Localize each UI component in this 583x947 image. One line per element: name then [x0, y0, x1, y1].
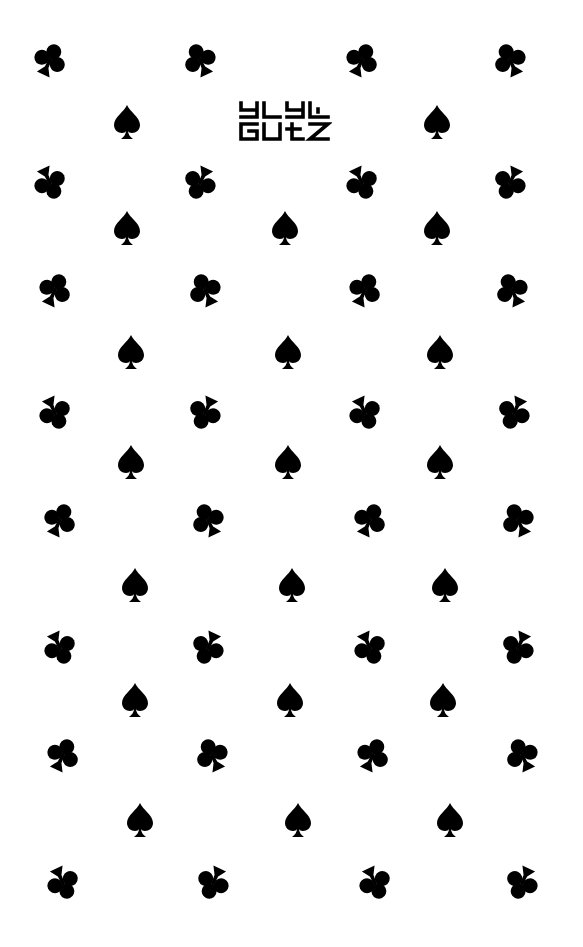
club-icon [186, 856, 239, 909]
club-icon [335, 156, 388, 209]
spade-icon [270, 680, 310, 720]
club-icon [28, 386, 81, 439]
spade-icon [111, 332, 151, 372]
club-icon [36, 856, 89, 909]
club-icon [491, 621, 544, 674]
club-icon [335, 33, 388, 86]
club-icon [178, 263, 231, 316]
club-icon [178, 386, 231, 439]
spade-icon [420, 332, 460, 372]
club-icon [173, 33, 226, 86]
club-icon [346, 728, 399, 781]
logo: YLYL GUTZ [238, 100, 332, 142]
spade-icon [107, 102, 147, 142]
spade-icon [268, 442, 308, 482]
club-icon [487, 386, 540, 439]
spade-icon [417, 208, 457, 248]
club-icon [23, 156, 76, 209]
club-icon [36, 728, 89, 781]
club-icon [181, 493, 234, 546]
club-icon [338, 263, 391, 316]
spade-icon [425, 565, 465, 605]
club-icon [23, 33, 76, 86]
spade-icon [268, 332, 308, 372]
club-icon [33, 621, 86, 674]
spade-icon [115, 680, 155, 720]
club-icon [483, 156, 536, 209]
ylyl-gutz-logo-icon: YLYL GUTZ [238, 100, 332, 142]
spade-icon [423, 680, 463, 720]
club-icon [33, 493, 86, 546]
club-icon [491, 493, 544, 546]
club-icon [495, 856, 548, 909]
spade-icon [265, 208, 305, 248]
spade-icon [430, 800, 470, 840]
spade-icon [278, 800, 318, 840]
club-icon [348, 856, 401, 909]
club-icon [338, 386, 391, 439]
club-icon [485, 263, 538, 316]
spade-icon [417, 102, 457, 142]
spade-icon [120, 800, 160, 840]
spade-icon [420, 442, 460, 482]
club-icon [343, 621, 396, 674]
club-icon [185, 728, 238, 781]
spade-icon [107, 208, 147, 248]
club-icon [495, 728, 548, 781]
club-icon [28, 263, 81, 316]
club-icon [343, 493, 396, 546]
spade-icon [272, 565, 312, 605]
club-icon [173, 156, 226, 209]
club-icon [181, 621, 234, 674]
spade-icon [111, 442, 151, 482]
spade-icon [115, 565, 155, 605]
club-icon [483, 33, 536, 86]
